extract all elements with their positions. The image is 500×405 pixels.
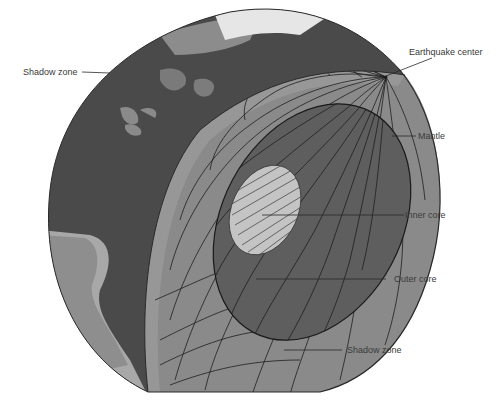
label-shadow-zone-bottom: Shadow zone [347, 345, 402, 355]
label-outer-core: Outer core [394, 274, 437, 284]
label-mantle: Mantle [418, 131, 445, 141]
earth-cross-section-diagram [0, 0, 500, 405]
label-inner-core: Inner core [405, 210, 446, 220]
leader-shadow-zone-top [82, 72, 110, 73]
label-earthquake-center: Earthquake center [409, 47, 483, 57]
label-shadow-zone-top: Shadow zone [23, 67, 78, 77]
